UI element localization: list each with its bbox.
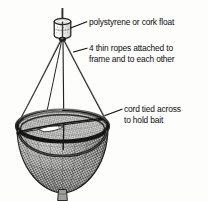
callout-ropes-label: 4 thin ropes attached to frame and to ea…: [89, 43, 174, 64]
callout-cord-label: cord tied across to hold bait: [124, 104, 181, 125]
float-assembly: [54, 8, 71, 41]
float-cylinder: [54, 18, 71, 38]
callout-cord-line1: cord tied across: [124, 104, 181, 114]
float-stick: [62, 8, 63, 19]
callout-ropes-line2: frame and to each other: [89, 54, 174, 65]
net-bottom-stub: [58, 190, 68, 201]
callout-cord-line2: to hold bait: [124, 115, 181, 126]
leader-cord: [105, 109, 122, 115]
callout-float-label: polystyrene or cork float: [89, 17, 174, 28]
leader-float: [71, 22, 87, 28]
leader-ropes: [74, 48, 88, 52]
rope-back: [45, 41, 61, 119]
diagram-page: polystyrene or cork float 4 thin ropes a…: [0, 0, 208, 201]
callout-ropes-line1: 4 thin ropes attached to: [89, 43, 173, 53]
drop-net-illustration: [0, 0, 208, 201]
